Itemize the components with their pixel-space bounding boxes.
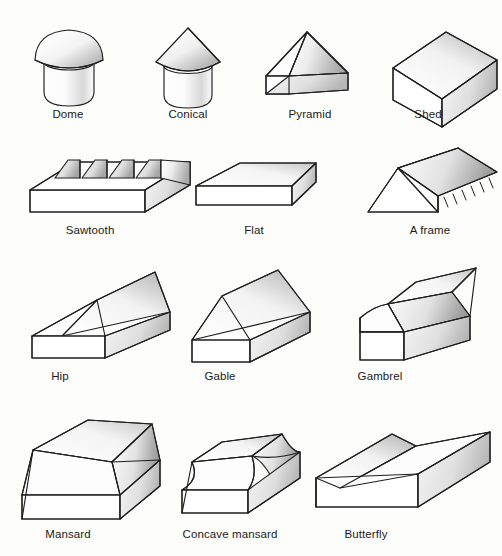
conical-roof-icon [156,28,220,108]
label-pyramid: Pyramid [289,108,332,121]
butterfly-roof-icon [316,432,490,507]
gable-roof-icon [192,270,310,362]
label-dome: Dome [52,108,83,121]
a-frame-roof-icon [368,148,497,212]
hip-roof-icon [32,272,170,358]
roof-types-diagram: Dome Conical Pyramid Shed Sawtooth Flat … [0,0,502,556]
label-concave-mansard: Concave mansard [183,528,278,541]
mansard-roof-icon [20,414,160,519]
label-flat: Flat [244,224,264,237]
label-butterfly: Butterfly [344,528,387,541]
label-mansard: Mansard [45,528,90,541]
label-conical: Conical [168,108,207,121]
label-shed: Shed [414,108,441,121]
pyramid-roof-icon [266,32,348,94]
gambrel-roof-icon [360,268,476,360]
label-gable: Gable [204,370,235,383]
shed-roof-icon [393,32,497,127]
roof-shapes-illustration [0,0,502,556]
label-sawtooth: Sawtooth [66,224,115,237]
label-hip: Hip [51,370,69,383]
label-a-frame: A frame [410,224,450,237]
concave-mansard-roof-icon [182,434,300,513]
dome-roof-icon [35,30,103,106]
sawtooth-roof-icon [30,160,190,212]
flat-roof-icon [196,163,316,205]
label-gambrel: Gambrel [358,370,403,383]
